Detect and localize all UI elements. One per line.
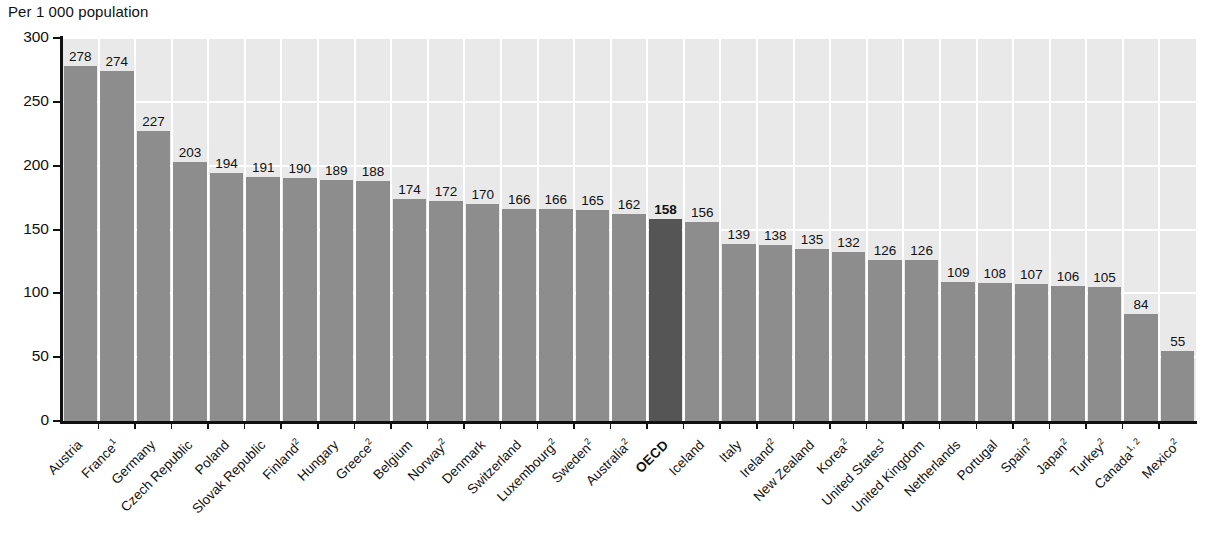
bar-group[interactable]: 191: [245, 38, 282, 421]
bar[interactable]: [393, 199, 427, 421]
bar[interactable]: [1124, 314, 1158, 421]
bar-group[interactable]: 174: [391, 38, 428, 421]
bar-value-label: 170: [464, 187, 501, 202]
bar[interactable]: [576, 210, 610, 421]
bar[interactable]: [100, 71, 134, 421]
bar-value-label: 106: [1050, 269, 1087, 284]
bar-group[interactable]: 107: [1013, 38, 1050, 421]
bar[interactable]: [685, 222, 719, 421]
bar[interactable]: [868, 260, 902, 421]
bar-group[interactable]: 203: [172, 38, 209, 421]
bar-group[interactable]: 108: [977, 38, 1014, 421]
x-tick-mark: [646, 422, 648, 429]
bar[interactable]: [466, 204, 500, 421]
bar-value-label: 166: [538, 192, 575, 207]
bar-group[interactable]: 227: [135, 38, 172, 421]
bar-value-label: 158: [647, 202, 684, 217]
bar[interactable]: [649, 219, 683, 421]
bar-group[interactable]: 132: [830, 38, 867, 421]
x-tick-mark: [1085, 422, 1087, 429]
x-tick-mark: [793, 422, 795, 429]
bar-group[interactable]: 194: [208, 38, 245, 421]
bar-group[interactable]: 106: [1050, 38, 1087, 421]
x-axis-line: [60, 421, 1197, 424]
y-tick-label: 100: [3, 283, 49, 301]
bar[interactable]: [905, 260, 939, 421]
x-tick-mark: [537, 422, 539, 429]
bar-chart: Per 1 000 population 2782742272031941911…: [0, 0, 1212, 543]
bar-group[interactable]: 170: [464, 38, 501, 421]
bar-group[interactable]: 139: [720, 38, 757, 421]
bar[interactable]: [173, 162, 207, 421]
bar[interactable]: [722, 244, 756, 421]
bar-group[interactable]: 84: [1123, 38, 1160, 421]
x-tick-mark: [207, 422, 209, 429]
bar-group[interactable]: 126: [867, 38, 904, 421]
bar-group[interactable]: 105: [1086, 38, 1123, 421]
bar-value-label: 156: [684, 205, 721, 220]
bar[interactable]: [1015, 284, 1049, 421]
x-tick-mark: [1012, 422, 1014, 429]
bar[interactable]: [356, 181, 390, 421]
x-tick-mark: [939, 422, 941, 429]
y-tick-mark: [53, 292, 61, 294]
x-tick-mark: [610, 422, 612, 429]
x-tick-mark: [171, 422, 173, 429]
bar[interactable]: [832, 252, 866, 421]
bar[interactable]: [978, 283, 1012, 421]
bar[interactable]: [320, 180, 354, 421]
bar[interactable]: [539, 209, 573, 421]
bar-value-label: 189: [318, 163, 355, 178]
bar-group[interactable]: 162: [611, 38, 648, 421]
x-tick-mark: [829, 422, 831, 429]
y-tick-label: 50: [3, 347, 49, 365]
bar-group[interactable]: 188: [355, 38, 392, 421]
bar-value-label: 126: [867, 243, 904, 258]
bar[interactable]: [210, 173, 244, 421]
bar-value-label: 172: [428, 184, 465, 199]
bar-value-label: 107: [1013, 267, 1050, 282]
bar-group[interactable]: 138: [757, 38, 794, 421]
bar-value-label: 274: [99, 54, 136, 69]
bar[interactable]: [283, 178, 317, 421]
bar-group[interactable]: 158: [647, 38, 684, 421]
bar-group[interactable]: 172: [428, 38, 465, 421]
y-tick-label: 300: [3, 28, 49, 46]
bar[interactable]: [1051, 286, 1085, 421]
bar-value-label: 84: [1123, 297, 1160, 312]
bar-group[interactable]: 189: [318, 38, 355, 421]
bar[interactable]: [941, 282, 975, 421]
bar-group[interactable]: 190: [281, 38, 318, 421]
bar[interactable]: [1088, 287, 1122, 421]
bar-group[interactable]: 278: [62, 38, 99, 421]
bar[interactable]: [795, 249, 829, 421]
bar-group[interactable]: 274: [99, 38, 136, 421]
bar[interactable]: [612, 214, 646, 421]
bar-group[interactable]: 109: [940, 38, 977, 421]
y-tick-mark: [53, 37, 61, 39]
bar-value-label: 227: [135, 114, 172, 129]
bar-group[interactable]: 166: [538, 38, 575, 421]
bar-group[interactable]: 165: [574, 38, 611, 421]
bar-group[interactable]: 126: [903, 38, 940, 421]
y-tick-mark: [53, 229, 61, 231]
bar[interactable]: [246, 177, 280, 421]
bar[interactable]: [759, 245, 793, 421]
bar-group[interactable]: 135: [794, 38, 831, 421]
x-tick-mark: [1049, 422, 1051, 429]
bar-value-label: 191: [245, 160, 282, 175]
bar-value-label: 132: [830, 235, 867, 250]
bar-group[interactable]: 166: [501, 38, 538, 421]
bar-group[interactable]: 156: [684, 38, 721, 421]
bar-value-label: 166: [501, 192, 538, 207]
x-tick-mark: [244, 422, 246, 429]
bar[interactable]: [502, 209, 536, 421]
y-tick-mark: [53, 101, 61, 103]
bar[interactable]: [64, 66, 98, 421]
bar[interactable]: [137, 131, 171, 421]
x-tick-mark: [573, 422, 575, 429]
bar[interactable]: [429, 201, 463, 421]
y-tick-mark: [53, 356, 61, 358]
bar[interactable]: [1161, 351, 1195, 421]
bar-group[interactable]: 55: [1159, 38, 1196, 421]
